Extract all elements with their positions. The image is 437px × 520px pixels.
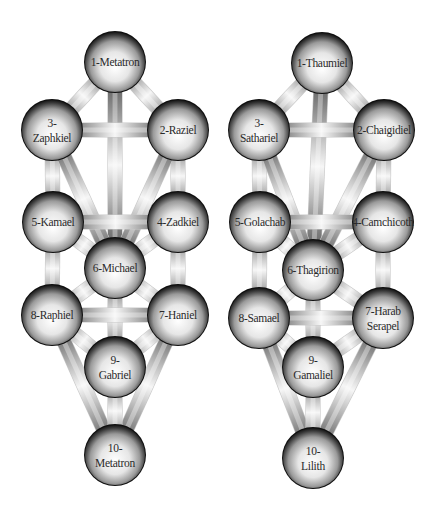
node-label: 4-Zadkiel — [157, 216, 199, 228]
node-label: Lilith — [301, 460, 325, 472]
node-label: 8-Samael — [238, 312, 279, 324]
sephirah-node-left-5: 5-Kamael — [22, 191, 84, 253]
sephirah-node-right-3: 3-Sathariel — [228, 99, 290, 161]
sephirah-node-left-2: 2-Raziel — [147, 99, 209, 161]
node-label: 9- — [111, 354, 120, 366]
sphere-icon — [353, 288, 413, 348]
node-label: Gabriel — [99, 369, 131, 381]
node-label: 6-Thagirion — [287, 264, 339, 277]
node-label: 1-Metatron — [91, 56, 140, 68]
sphere-icon — [229, 100, 289, 160]
node-label: Metatron — [95, 457, 135, 469]
node-label: 5-Golachab — [235, 216, 286, 228]
sephirah-node-left-10: 10-Metatron — [84, 424, 146, 486]
node-label: 3- — [255, 117, 264, 129]
node-label: 2-Chaigidiel — [357, 124, 411, 137]
sphere-icon — [85, 337, 145, 397]
sephirah-node-right-10: 10-Lilith — [282, 427, 344, 489]
node-label: Serapel — [367, 320, 399, 333]
node-label: 1-Thaumiel — [297, 57, 348, 69]
sphere-icon — [283, 337, 343, 397]
sephirah-node-left-3: 3-Zaphkiel — [21, 99, 83, 161]
tree-diagram-svg: 1-Metatron2-Raziel3-Zaphkiel4-Zadkiel5-K… — [0, 0, 437, 520]
sephirah-node-right-4: 4-Camchicoth — [352, 191, 414, 253]
node-label: 7-Harab — [365, 305, 401, 317]
sephirah-node-left-6: 6-Michael — [84, 237, 146, 299]
node-label: 3- — [48, 117, 57, 129]
sephirah-node-right-1: 1-Thaumiel — [291, 32, 353, 94]
sephirah-node-left-9: 9-Gabriel — [84, 336, 146, 398]
sphere-icon — [85, 425, 145, 485]
node-label: 7-Haniel — [159, 309, 197, 321]
sephirah-node-right-6: 6-Thagirion — [282, 239, 344, 301]
sephirah-node-right-9: 9-Gamaliel — [282, 336, 344, 398]
sephirah-node-right-5: 5-Golachab — [229, 191, 291, 253]
node-label: 6-Michael — [93, 262, 138, 274]
sephirah-node-right-8: 8-Samael — [228, 287, 290, 349]
node-label: Gamaliel — [293, 369, 333, 381]
node-label: 10- — [306, 445, 321, 457]
tree-diagram-canvas: 1-Metatron2-Raziel3-Zaphkiel4-Zadkiel5-K… — [0, 0, 437, 520]
sephirah-node-left-4: 4-Zadkiel — [147, 191, 209, 253]
sephirah-node-right-7: 7-HarabSerapel — [352, 287, 414, 349]
node-label: Sathariel — [240, 132, 278, 144]
sphere-icon — [22, 100, 82, 160]
sephirah-node-left-1: 1-Metatron — [84, 31, 146, 93]
sphere-icon — [283, 428, 343, 488]
node-label: 5-Kamael — [32, 216, 75, 228]
sephirah-node-right-2: 2-Chaigidiel — [353, 99, 415, 161]
node-label: 10- — [108, 442, 123, 454]
sephirah-node-left-8: 8-Raphiel — [21, 284, 83, 346]
node-label: Zaphkiel — [33, 132, 72, 145]
node-label: 9- — [309, 354, 318, 366]
node-label: 4-Camchicoth — [352, 216, 414, 228]
sephirah-node-left-7: 7-Haniel — [147, 284, 209, 346]
node-label: 8-Raphiel — [31, 309, 74, 322]
node-label: 2-Raziel — [160, 124, 197, 136]
